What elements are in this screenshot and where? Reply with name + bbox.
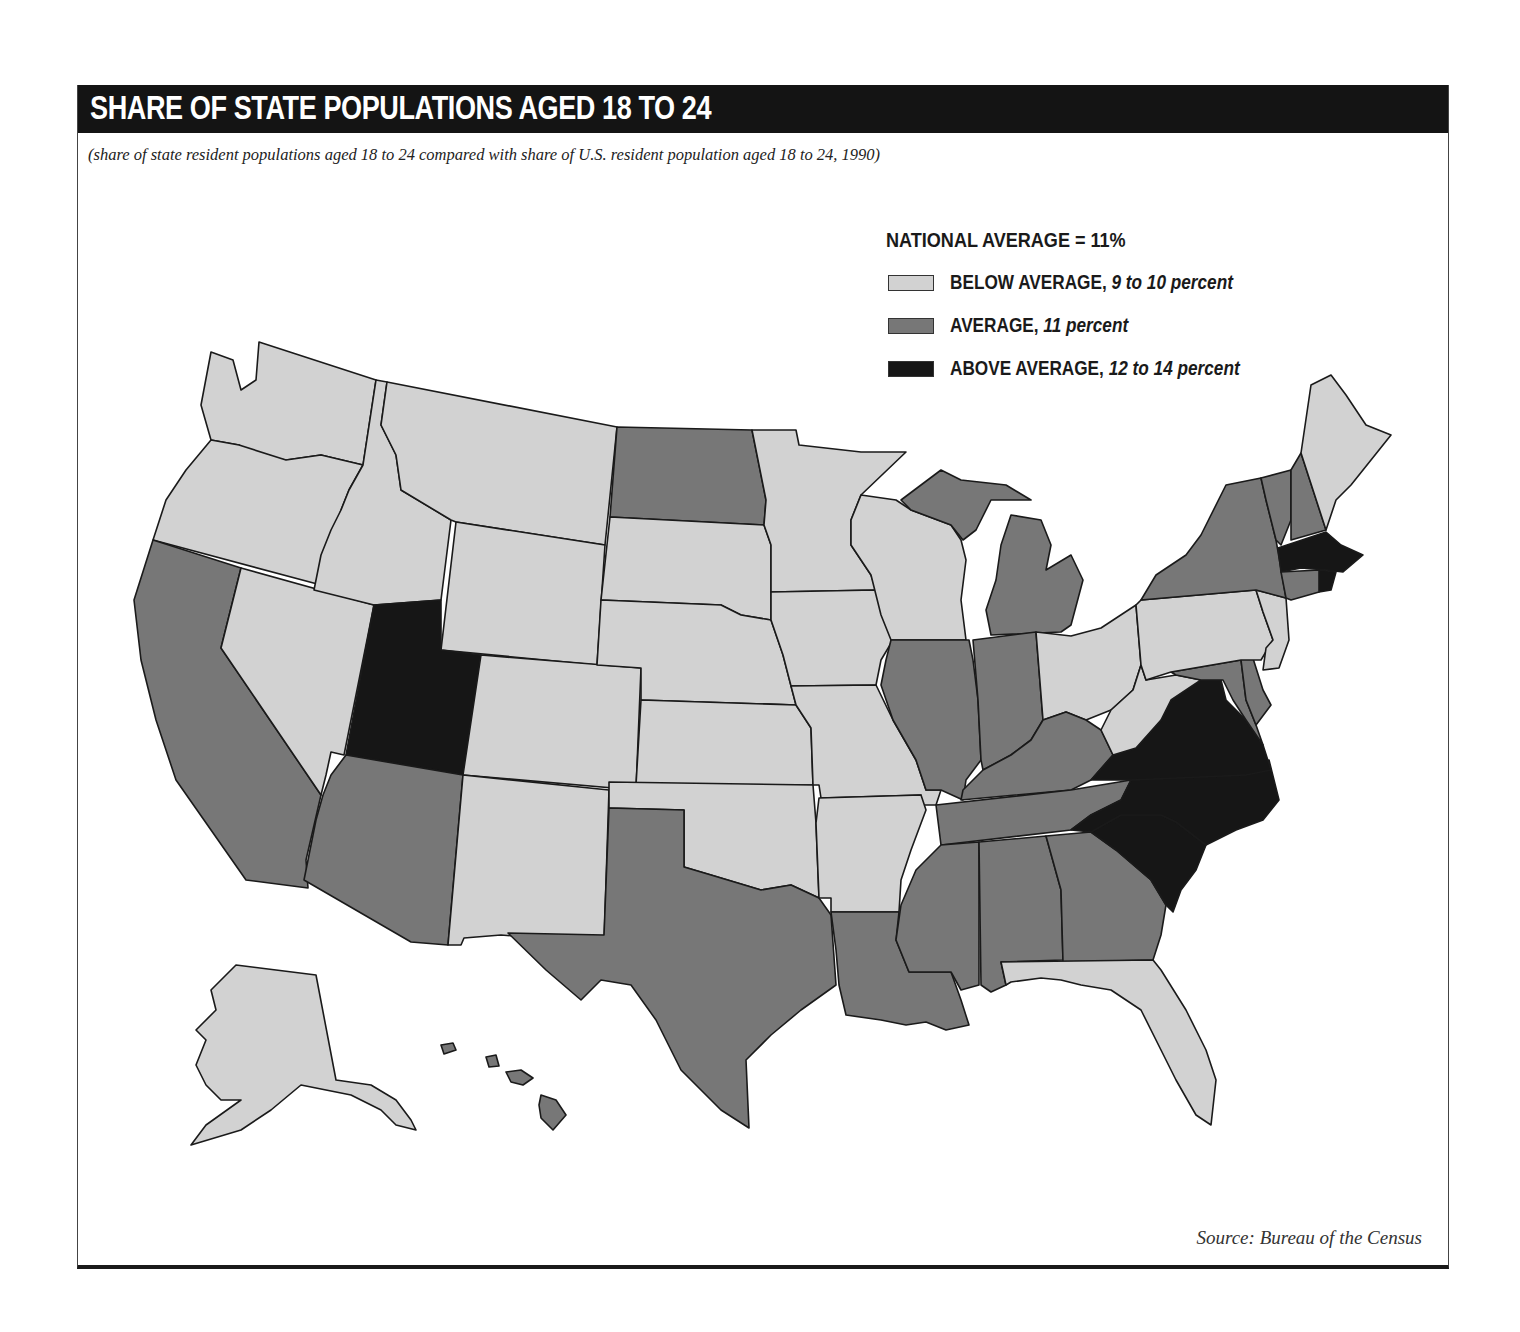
- source-note: Source: Bureau of the Census: [1197, 1227, 1423, 1249]
- state-MS: [896, 842, 979, 990]
- legend-swatch-average: [888, 318, 934, 334]
- legend-label-above: ABOVE AVERAGE,: [950, 357, 1104, 379]
- legend-swatch-above: [888, 361, 934, 377]
- chart-frame: SHARE OF STATE POPULATIONS AGED 18 TO 24…: [77, 85, 1449, 1269]
- state-AK: [191, 965, 416, 1145]
- state-NM: [448, 775, 609, 945]
- legend-heading: NATIONAL AVERAGE = 11%: [886, 228, 1126, 252]
- state-CO: [463, 655, 641, 790]
- state-RI: [1319, 570, 1336, 592]
- state-AZ: [304, 755, 463, 945]
- state-IA: [771, 590, 893, 686]
- state-NY: [1141, 478, 1286, 600]
- state-ND: [610, 427, 766, 525]
- state-HI: [441, 1043, 566, 1130]
- legend-label-average: AVERAGE,: [950, 314, 1039, 336]
- legend-range-below: 9 to 10 percent: [1112, 271, 1233, 293]
- state-CT: [1281, 570, 1319, 600]
- state-FL: [1001, 960, 1216, 1125]
- legend-label-below: BELOW AVERAGE,: [950, 271, 1107, 293]
- legend-range-above: 12 to 14 percent: [1109, 357, 1240, 379]
- state-WY: [441, 522, 605, 665]
- legend-range-average: 11 percent: [1043, 314, 1128, 336]
- legend: NATIONAL AVERAGE = 11% BELOW AVERAGE, 9 …: [886, 228, 1165, 252]
- state-KS: [636, 700, 813, 785]
- legend-swatch-below: [888, 275, 934, 291]
- us-map: [78, 85, 1450, 1265]
